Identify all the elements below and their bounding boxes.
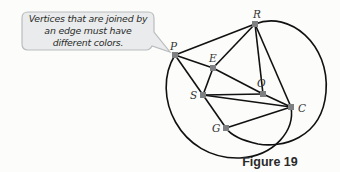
- edge-P-R: [175, 24, 255, 55]
- vertex-C: [288, 104, 294, 110]
- vertex-E: [210, 65, 216, 71]
- vertex-label-E: E: [209, 53, 217, 64]
- vertex-label-C: C: [298, 103, 306, 114]
- edge-R-E: [213, 24, 255, 68]
- callout-text: Vertices that are joined by an edge must…: [24, 13, 152, 49]
- edge-P-E: [175, 55, 213, 68]
- vertex-label-S: S: [190, 90, 197, 101]
- vertex-G: [223, 125, 229, 131]
- edge-E-S: [203, 68, 213, 95]
- edge-E-O: [213, 68, 263, 94]
- figure-caption: Figure 19: [220, 155, 320, 169]
- vertex-O: [260, 91, 266, 97]
- vertex-P: [172, 52, 178, 58]
- vertex-label-P: P: [170, 41, 177, 52]
- edge-G-C: [226, 107, 291, 128]
- vertex-label-O: O: [257, 78, 266, 89]
- vertex-S: [200, 92, 206, 98]
- vertex-label-R: R: [253, 9, 261, 20]
- vertex-label-G: G: [212, 123, 220, 134]
- vertex-R: [252, 21, 258, 27]
- edges: [175, 24, 291, 128]
- edge-S-O: [203, 94, 263, 95]
- edge-P-S: [175, 55, 203, 95]
